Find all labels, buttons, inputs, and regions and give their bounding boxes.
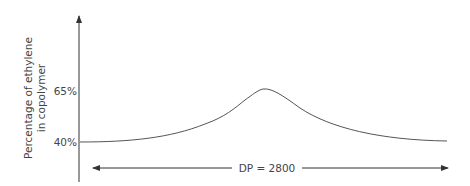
ytick-65: 65% — [54, 85, 77, 97]
ytick-40: 40% — [54, 136, 77, 148]
chart: 65% 40% Percentage of ethylene in copoly… — [0, 0, 470, 186]
curve — [80, 89, 447, 142]
dp-annotation: DP = 2800 — [239, 162, 296, 174]
svg-text:in copolymer: in copolymer — [35, 63, 47, 132]
svg-text:Percentage of ethylene: Percentage of ethylene — [22, 37, 34, 159]
y-axis-label: Percentage of ethylene in copolymer — [22, 37, 47, 159]
